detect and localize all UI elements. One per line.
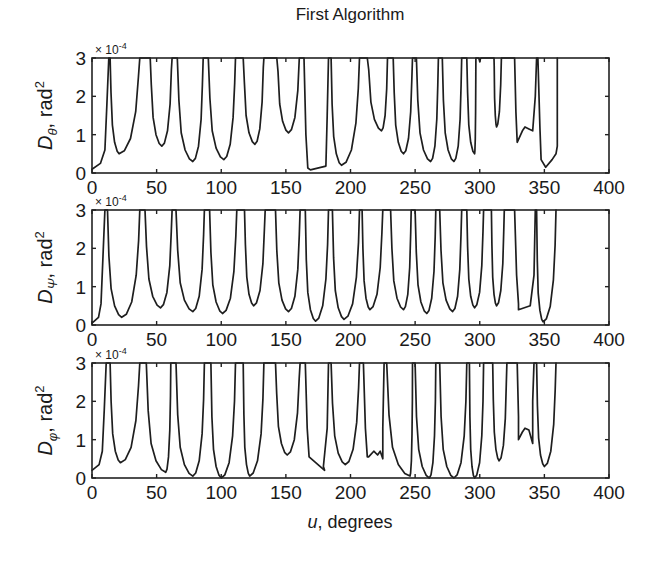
x-tick-label: 150 [270, 482, 302, 503]
y-tick-label: 3 [75, 48, 86, 69]
x-tick-label: 50 [146, 329, 167, 350]
y-tick-label: 0 [75, 468, 86, 489]
x-tick-label: 400 [593, 482, 625, 503]
y-tick-label: 3 [75, 353, 86, 374]
data-line-phi [92, 363, 556, 478]
x-tick-label: 250 [399, 329, 431, 350]
data-line-psi [92, 210, 556, 323]
x-tick-label: 350 [529, 329, 561, 350]
x-axis-label: u, degrees [307, 512, 392, 532]
x-tick-label: 150 [270, 329, 302, 350]
x-tick-label: 0 [87, 482, 98, 503]
y-axis-label-theta: Dθ, rad2 [32, 81, 60, 150]
y-tick-label: 1 [75, 125, 86, 146]
x-tick-label: 400 [593, 329, 625, 350]
x-tick-label: 150 [270, 177, 302, 198]
x-tick-label: 300 [464, 177, 496, 198]
exponent-label: × 10-4 [95, 41, 127, 57]
y-tick-label: 1 [75, 430, 86, 451]
x-tick-label: 100 [205, 482, 237, 503]
panels-group: 0501001502002503003504000123× 10-4Dθ, ra… [32, 41, 625, 503]
y-axis-label-psi: DΨ, rad2 [32, 231, 60, 304]
x-tick-label: 400 [593, 177, 625, 198]
x-tick-label: 50 [146, 177, 167, 198]
y-tick-label: 2 [75, 238, 86, 259]
x-tick-label: 300 [464, 329, 496, 350]
x-tick-label: 100 [205, 177, 237, 198]
x-tick-label: 300 [464, 482, 496, 503]
x-tick-label: 200 [335, 329, 367, 350]
y-tick-label: 0 [75, 163, 86, 184]
y-tick-label: 0 [75, 315, 86, 336]
x-tick-label: 250 [399, 482, 431, 503]
panel-phi: 0501001502002503003504000123× 10-4Dφ, ra… [32, 346, 625, 503]
x-tick-label: 200 [335, 177, 367, 198]
panel-theta: 0501001502002503003504000123× 10-4Dθ, ra… [32, 41, 625, 198]
x-tick-label: 350 [529, 482, 561, 503]
x-tick-label: 250 [399, 177, 431, 198]
y-tick-label: 3 [75, 200, 86, 221]
x-tick-label: 100 [205, 329, 237, 350]
chart-canvas: First Algorithm 050100150200250300350400… [0, 0, 656, 565]
x-tick-label: 50 [146, 482, 167, 503]
exponent-label: × 10-4 [95, 346, 127, 362]
x-tick-label: 0 [87, 329, 98, 350]
data-line-theta [92, 58, 557, 170]
panel-psi: 0501001502002503003504000123× 10-4DΨ, ra… [32, 193, 625, 350]
x-tick-label: 200 [335, 482, 367, 503]
y-tick-label: 2 [75, 391, 86, 412]
figure: First Algorithm 050100150200250300350400… [0, 0, 656, 565]
exponent-label: × 10-4 [95, 193, 127, 209]
chart-title: First Algorithm [296, 5, 405, 24]
y-tick-label: 2 [75, 86, 86, 107]
y-tick-label: 1 [75, 277, 86, 298]
x-tick-label: 350 [529, 177, 561, 198]
y-axis-label-phi: Dφ, rad2 [32, 385, 60, 455]
